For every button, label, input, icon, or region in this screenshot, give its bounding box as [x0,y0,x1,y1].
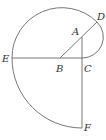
arc-ef [12,58,82,128]
label-f: F [83,122,92,133]
label-b: B [55,63,63,74]
label-e: E [1,53,10,64]
label-d: D [96,11,105,22]
label-a: A [71,26,79,37]
arc-de [12,8,97,58]
geometry-diagram: A B C D E F [0,0,106,140]
label-c: C [84,63,92,74]
arc-cd [82,22,103,58]
